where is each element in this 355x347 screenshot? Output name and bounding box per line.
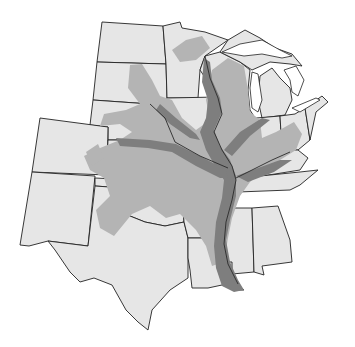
state-north-dakota [97, 22, 166, 64]
basin-map [0, 0, 355, 347]
state-new-mexico [20, 172, 95, 246]
state-alabama [252, 206, 292, 275]
